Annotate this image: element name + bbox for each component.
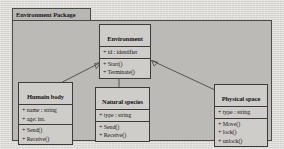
class-name-compartment: Physical space [215,85,267,107]
class-operations-compartment: + Move() + lock() + unlock() [215,119,267,147]
uml-class-physical-space[interactable]: Physical space + type : string + Move() … [214,84,268,147]
class-operation: + Move() [218,120,264,129]
class-operation: + Receive() [22,135,69,144]
class-name-compartment: Environment [100,25,150,47]
class-attribute: + id : identifier [103,48,147,57]
uml-class-natural-species[interactable]: Natural species + type : string + Send()… [95,87,150,142]
class-attributes-compartment: + name : string + age: int. [19,105,72,125]
class-attribute: + type : string [218,108,264,117]
class-name: Environment [107,35,143,42]
class-operation: + Send() [99,123,146,132]
class-attributes-compartment: + type : string [96,110,149,122]
class-attribute: + age: int. [22,115,69,124]
class-name-compartment: Humain body [19,83,72,105]
class-operations-compartment: + Send() + Receive() [19,125,72,144]
class-name: Humain body [27,93,64,100]
class-operations-compartment: + Send() + Receive() [96,122,149,141]
class-operation: + Send() [22,126,69,135]
diagram-canvas: Environment Package Environment + id : i… [0,0,284,149]
class-name: Physical space [222,95,261,102]
class-operation: + Terminate() [103,68,147,77]
class-operation: + unlock() [218,137,264,146]
class-operation: + Receive() [99,131,146,140]
uml-class-environment[interactable]: Environment + id : identifier + Start() … [99,24,151,79]
class-operation: + lock() [218,128,264,137]
class-name: Natural species [102,98,143,105]
class-attributes-compartment: + type : string [215,107,267,119]
class-name-compartment: Natural species [96,88,149,110]
uml-class-humain-body[interactable]: Humain body + name : string + age: int. … [18,82,73,145]
class-attributes-compartment: + id : identifier [100,47,150,59]
class-attribute: + name : string [22,106,69,115]
class-attribute: + type : string [99,111,146,120]
class-operations-compartment: + Start() + Terminate() [100,59,150,78]
class-operation: + Start() [103,60,147,69]
package-name-label: Environment Package [16,11,76,18]
